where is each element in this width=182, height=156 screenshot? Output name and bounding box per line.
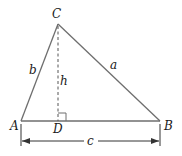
vertex-label-b: B xyxy=(163,119,173,133)
vertex-label-c: C xyxy=(52,7,61,21)
side-a xyxy=(58,24,160,121)
altitude-label-h: h xyxy=(60,74,68,88)
side-b xyxy=(21,24,58,121)
vertex-label-a: A xyxy=(9,119,19,133)
triangle-diagram: C A B D b a h c xyxy=(0,0,182,156)
side-label-b: b xyxy=(29,63,37,77)
side-label-a: a xyxy=(110,58,117,72)
right-angle-marker xyxy=(58,113,66,121)
vertex-label-d: D xyxy=(52,122,63,136)
dimension-label-c: c xyxy=(87,134,94,148)
